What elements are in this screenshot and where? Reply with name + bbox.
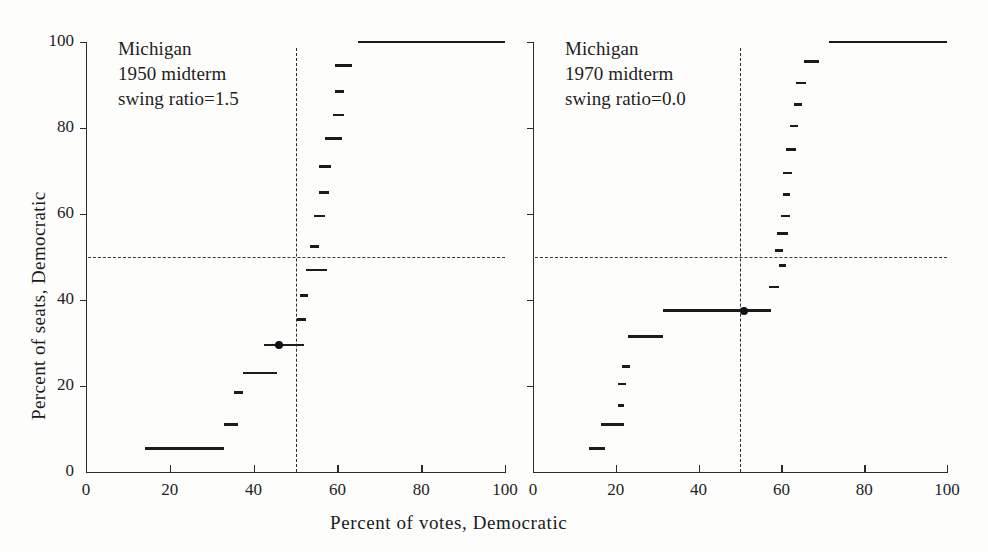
x-tick-0 (533, 465, 534, 472)
step-segment (358, 41, 505, 44)
x-tick-40 (699, 465, 700, 472)
y-tick-label-100: 100 (24, 31, 74, 51)
step-segment (618, 404, 624, 407)
annotation-line-0: Michigan (565, 36, 686, 61)
step-segment (618, 383, 626, 386)
step-segment (314, 215, 324, 218)
step-segment (300, 294, 308, 297)
x-tick-label-0: 0 (503, 480, 563, 500)
step-segment (306, 269, 327, 272)
step-segment (804, 60, 818, 63)
figure-root: Percent of seats, Democratic Percent of … (0, 0, 988, 552)
step-segment (790, 125, 798, 128)
step-segment (325, 137, 342, 140)
x-tick-label-40: 40 (224, 480, 284, 500)
step-segment (297, 318, 306, 321)
x-tick-80 (421, 465, 422, 472)
x-tick-label-100: 100 (917, 480, 977, 500)
x-tick-100 (505, 465, 506, 472)
step-segment (333, 114, 343, 117)
x-tick-0 (86, 465, 87, 472)
x-axis-line (86, 472, 506, 473)
y-tick-40 (527, 300, 534, 301)
horizontal-reference-line-50 (535, 257, 947, 258)
step-segment (663, 309, 771, 312)
y-tick-60 (80, 214, 87, 215)
step-segment (777, 232, 787, 235)
step-segment (601, 423, 624, 426)
y-tick-100-foot (527, 42, 534, 43)
step-segment (264, 344, 304, 347)
step-segment (319, 191, 329, 194)
x-tick-60 (337, 465, 338, 472)
annotation-line-2: swing ratio=1.5 (118, 86, 239, 111)
x-tick-label-0: 0 (56, 480, 116, 500)
x-tick-label-20: 20 (586, 480, 646, 500)
horizontal-reference-line-50 (88, 257, 505, 258)
step-segment (769, 286, 779, 289)
x-tick-label-80: 80 (834, 480, 894, 500)
y-tick-80 (80, 128, 87, 129)
y-tick-20 (80, 386, 87, 387)
annotation-line-0: Michigan (118, 36, 239, 61)
annotation-line-2: swing ratio=0.0 (565, 86, 686, 111)
y-tick-label-40: 40 (24, 289, 74, 309)
vertical-reference-line-50 (296, 48, 297, 472)
y-tick-label-80: 80 (24, 117, 74, 137)
x-tick-label-60: 60 (307, 480, 367, 500)
step-segment (829, 41, 947, 44)
y-tick-20 (527, 386, 534, 387)
panel-annotation: Michigan1970 midtermswing ratio=0.0 (565, 36, 686, 111)
step-segment (319, 165, 332, 168)
y-tick-60 (527, 214, 534, 215)
x-tick-100 (947, 465, 948, 472)
step-segment (786, 148, 796, 151)
step-segment (145, 447, 225, 450)
observed-point-marker (740, 307, 748, 315)
y-tick-label-20: 20 (24, 375, 74, 395)
step-segment (775, 249, 783, 252)
step-segment (783, 193, 789, 196)
step-segment (335, 90, 343, 93)
x-tick-20 (616, 465, 617, 472)
step-segment (622, 365, 630, 368)
step-segment (589, 447, 606, 450)
step-segment (310, 245, 318, 248)
step-segment (781, 215, 789, 218)
vertical-reference-line-50 (740, 48, 741, 472)
x-tick-80 (864, 465, 865, 472)
x-tick-label-20: 20 (140, 480, 200, 500)
step-segment (335, 64, 352, 67)
x-tick-60 (781, 465, 782, 472)
x-tick-20 (170, 465, 171, 472)
x-tick-label-40: 40 (669, 480, 729, 500)
observed-point-marker (275, 341, 283, 349)
x-tick-label-60: 60 (751, 480, 811, 500)
step-segment (794, 103, 802, 106)
y-tick-40 (80, 300, 87, 301)
x-axis-title: Percent of votes, Democratic (330, 512, 567, 534)
y-tick-80 (527, 128, 534, 129)
x-tick-40 (254, 465, 255, 472)
y-tick-label-60: 60 (24, 203, 74, 223)
step-segment (783, 172, 791, 175)
x-tick-label-80: 80 (391, 480, 451, 500)
step-segment (234, 391, 243, 394)
step-segment (779, 264, 785, 267)
step-segment (796, 82, 806, 85)
step-segment (243, 372, 277, 375)
panel-annotation: Michigan1950 midtermswing ratio=1.5 (118, 36, 239, 111)
y-tick-100-foot (80, 42, 87, 43)
y-tick-label-0: 0 (24, 461, 74, 481)
annotation-line-1: 1970 midterm (565, 61, 686, 86)
x-axis-line (533, 472, 948, 473)
step-segment (224, 423, 238, 426)
annotation-line-1: 1950 midterm (118, 61, 239, 86)
step-segment (628, 335, 663, 338)
